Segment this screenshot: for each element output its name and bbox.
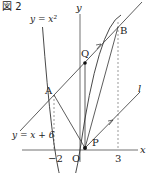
point-P-dot (83, 146, 87, 150)
x-axis-label: x (140, 145, 146, 155)
figure-title: 図 2 (2, 2, 22, 12)
point-Q-dot (83, 61, 87, 65)
tick-label-neg2: −2 (48, 154, 63, 164)
line-label: y = x + 6 (12, 131, 54, 140)
parabola-label: y = x² (30, 15, 57, 24)
line-l-label: l (138, 84, 141, 94)
point-Q-label: Q (81, 49, 89, 59)
origin-label: O (72, 154, 80, 164)
point-P-label: P (92, 138, 99, 148)
parabola-curve (43, 15, 122, 173)
point-A-label: A (45, 86, 52, 96)
tick-label-3: 3 (115, 154, 121, 164)
y-axis-label: y (76, 3, 82, 13)
point-B-label: B (120, 26, 127, 36)
